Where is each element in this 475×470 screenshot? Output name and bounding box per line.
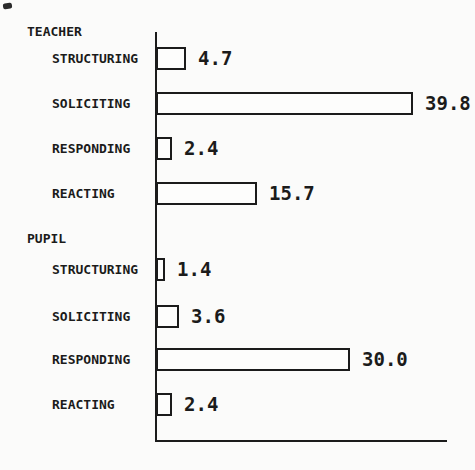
category-label-structuring: STRUCTURING bbox=[52, 47, 138, 70]
value-label-pupil-responding: 30.0 bbox=[362, 348, 408, 371]
group-label-pupil: PUPIL bbox=[27, 232, 66, 246]
value-label-teacher-reacting: 15.7 bbox=[269, 182, 315, 205]
bar-teacher-responding bbox=[156, 137, 172, 160]
bar-pupil-responding bbox=[156, 348, 350, 371]
category-label-responding: RESPONDING bbox=[52, 137, 130, 160]
category-label-reacting: REACTING bbox=[52, 393, 115, 416]
category-label-soliciting: SOLICITING bbox=[52, 92, 130, 115]
category-label-soliciting: SOLICITING bbox=[52, 305, 130, 328]
scan-artifact bbox=[3, 2, 13, 9]
value-label-teacher-responding: 2.4 bbox=[184, 137, 218, 160]
value-label-pupil-structuring: 1.4 bbox=[177, 258, 211, 281]
bar-pupil-reacting bbox=[156, 393, 172, 416]
value-label-pupil-soliciting: 3.6 bbox=[191, 305, 225, 328]
value-label-teacher-structuring: 4.7 bbox=[198, 47, 232, 70]
value-label-teacher-soliciting: 39.8 bbox=[425, 92, 471, 115]
value-label-pupil-reacting: 2.4 bbox=[184, 393, 218, 416]
bar-teacher-structuring bbox=[156, 47, 186, 70]
bar-teacher-reacting bbox=[156, 182, 257, 205]
bar-pupil-structuring bbox=[156, 258, 165, 281]
grouped-horizontal-bar-chart: TEACHERSTRUCTURING4.7SOLICITING39.8RESPO… bbox=[0, 0, 475, 470]
bar-pupil-soliciting bbox=[156, 305, 179, 328]
bar-teacher-soliciting bbox=[156, 92, 413, 115]
group-label-teacher: TEACHER bbox=[27, 25, 82, 39]
x-axis-line bbox=[155, 440, 447, 442]
category-label-structuring: STRUCTURING bbox=[52, 258, 138, 281]
category-label-responding: RESPONDING bbox=[52, 348, 130, 371]
category-label-reacting: REACTING bbox=[52, 182, 115, 205]
